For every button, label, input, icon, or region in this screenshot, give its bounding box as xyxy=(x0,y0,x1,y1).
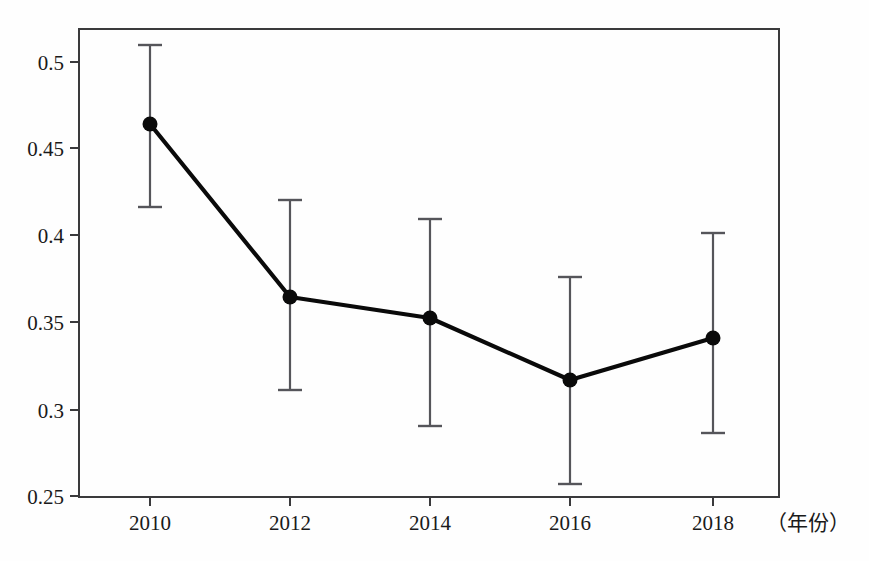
data-point-2014[interactable] xyxy=(423,311,438,326)
x-tick-label-2016: 2016 xyxy=(549,511,591,535)
y-tick-label-0.3: 0.3 xyxy=(38,399,64,423)
y-tick-label-0.5: 0.5 xyxy=(38,51,64,75)
y-tick-label-0.4: 0.4 xyxy=(38,224,65,248)
data-point-2016[interactable] xyxy=(563,373,578,388)
y-tick-label-0.25: 0.25 xyxy=(27,485,64,509)
y-tick-label-0.45: 0.45 xyxy=(27,137,64,161)
data-point-2012[interactable] xyxy=(283,290,298,305)
data-point-2018[interactable] xyxy=(706,331,721,346)
x-tick-label-2014: 2014 xyxy=(409,511,452,535)
x-tick-label-2010: 2010 xyxy=(129,511,171,535)
data-point-2010[interactable] xyxy=(143,117,158,132)
x-tick-label-2012: 2012 xyxy=(269,511,311,535)
y-tick-label-0.35: 0.35 xyxy=(27,311,64,335)
line-chart-with-error-bars: 0.5 0.45 0.4 0.35 0.3 0.25 2010 2012 201… xyxy=(0,0,869,561)
chart-background xyxy=(0,0,869,561)
x-axis-title: （年份） xyxy=(766,511,850,535)
x-tick-label-2018: 2018 xyxy=(692,511,734,535)
